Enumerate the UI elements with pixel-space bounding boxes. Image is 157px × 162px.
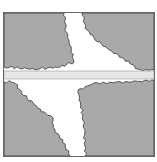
caption [0,156,157,162]
top-left-block [4,13,74,70]
diagram [0,0,157,162]
bottom-right-block [78,80,154,156]
horizontal-band [4,71,154,79]
